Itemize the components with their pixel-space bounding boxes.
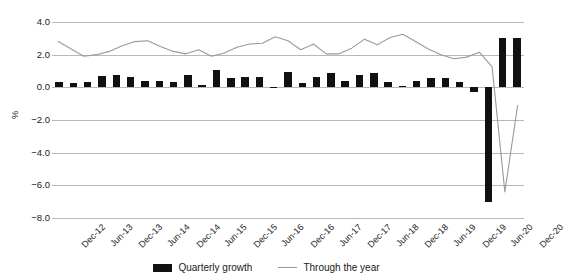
x-tick-label: Jun-14 bbox=[165, 222, 192, 249]
line-series-through-the-year bbox=[52, 22, 524, 218]
y-tick-label: −6.0 bbox=[4, 180, 50, 189]
chart-legend: Quarterly growth Through the year bbox=[0, 262, 533, 273]
x-tick-label: Jun-17 bbox=[337, 222, 364, 249]
x-tick-label: Dec-12 bbox=[80, 222, 108, 250]
y-tick-label: 2.0 bbox=[4, 50, 50, 59]
x-tick-label: Dec-18 bbox=[423, 222, 451, 250]
x-tick-label: Dec-20 bbox=[537, 222, 565, 250]
plot-area bbox=[52, 22, 524, 218]
x-tick-label: Dec-14 bbox=[194, 222, 222, 250]
x-tick-label: Jun-18 bbox=[394, 222, 421, 249]
gridline--8 bbox=[52, 218, 524, 219]
x-tick-label: Dec-17 bbox=[366, 222, 394, 250]
x-tick-label: Jun-16 bbox=[279, 222, 306, 249]
y-tick-label: −8.0 bbox=[4, 213, 50, 222]
x-tick-label: Dec-19 bbox=[480, 222, 508, 250]
x-tick-label: Jun-19 bbox=[451, 222, 478, 249]
legend-item-through-the-year[interactable]: Through the year bbox=[278, 262, 379, 273]
y-tick-label: 4.0 bbox=[4, 17, 50, 26]
legend-label-quarterly-growth: Quarterly growth bbox=[178, 262, 252, 273]
legend-label-through-the-year: Through the year bbox=[303, 262, 379, 273]
x-tick-label: Dec-16 bbox=[308, 222, 336, 250]
y-tick-label: 0.0 bbox=[4, 82, 50, 91]
x-axis-ticks: Dec-12Jun-13Dec-13Jun-14Dec-14Jun-15Dec-… bbox=[52, 220, 524, 260]
bar-swatch-icon bbox=[153, 264, 172, 272]
legend-item-quarterly-growth[interactable]: Quarterly growth bbox=[153, 262, 252, 273]
line-swatch-icon bbox=[278, 267, 297, 268]
y-tick-label: −4.0 bbox=[4, 148, 50, 157]
y-axis-ticks: 4.02.00.0−2.0−4.0−6.0−8.0 bbox=[0, 22, 50, 218]
x-tick-label: Jun-15 bbox=[222, 222, 249, 249]
x-tick-label: Jun-13 bbox=[108, 222, 135, 249]
y-tick-label: −2.0 bbox=[4, 115, 50, 124]
x-tick-label: Jun-20 bbox=[508, 222, 535, 249]
x-tick-label: Dec-15 bbox=[251, 222, 279, 250]
x-tick-label: Dec-13 bbox=[137, 222, 165, 250]
